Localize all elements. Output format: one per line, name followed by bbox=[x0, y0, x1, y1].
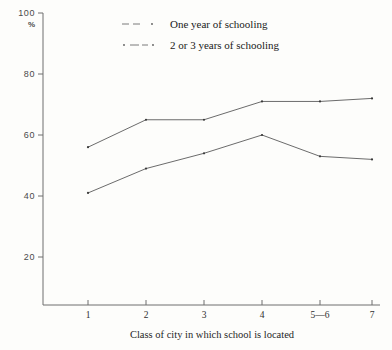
legend-swatch-dot-1 bbox=[151, 23, 153, 25]
chart-container: 100 % 80 60 40 20 1 2 3 4 5—6 7 Class of… bbox=[0, 0, 392, 350]
data-point bbox=[319, 155, 321, 157]
y-tick-label-100: 100 bbox=[18, 8, 35, 18]
series-line bbox=[88, 135, 372, 193]
data-point bbox=[87, 146, 89, 148]
data-point bbox=[203, 119, 205, 121]
x-tick-label-5-6: 5—6 bbox=[311, 310, 330, 320]
legend-swatch-dot-2a bbox=[123, 44, 125, 46]
series-line bbox=[88, 98, 372, 147]
series-two-or-three-years bbox=[87, 134, 373, 194]
data-point bbox=[87, 192, 89, 194]
data-point bbox=[319, 100, 321, 102]
y-tick-label-80: 80 bbox=[24, 69, 35, 79]
x-tick-label-7: 7 bbox=[370, 310, 375, 320]
data-point bbox=[145, 167, 147, 169]
x-axis-title: Class of city in which school is located bbox=[130, 329, 295, 340]
data-point bbox=[145, 119, 147, 121]
legend-entry-one-year: One year of schooling bbox=[122, 18, 268, 30]
x-tick-label-1: 1 bbox=[86, 310, 91, 320]
x-tick-label-3: 3 bbox=[202, 310, 207, 320]
x-tick-label-2: 2 bbox=[144, 310, 149, 320]
legend-entry-two-or-three-years: 2 or 3 years of schooling bbox=[123, 39, 279, 51]
legend-label-two-or-three-years: 2 or 3 years of schooling bbox=[170, 39, 280, 51]
data-point bbox=[371, 97, 373, 99]
data-point bbox=[261, 100, 263, 102]
data-point bbox=[371, 158, 373, 160]
y-tick-label-60: 60 bbox=[24, 130, 35, 140]
series-layer bbox=[87, 97, 373, 194]
y-tick-label-20: 20 bbox=[24, 252, 35, 262]
x-axis-ticks bbox=[88, 300, 372, 305]
y-axis-percent-label: % bbox=[28, 20, 35, 29]
series-one-year bbox=[87, 97, 373, 148]
y-axis-ticks bbox=[38, 13, 43, 257]
line-chart: 100 % 80 60 40 20 1 2 3 4 5—6 7 Class of… bbox=[0, 0, 392, 350]
legend-label-one-year: One year of schooling bbox=[170, 18, 268, 30]
legend-swatch-dot-2b bbox=[152, 44, 154, 46]
data-point bbox=[261, 134, 263, 136]
x-tick-label-4: 4 bbox=[260, 310, 265, 320]
data-point bbox=[203, 152, 205, 154]
legend: One year of schooling 2 or 3 years of sc… bbox=[122, 18, 280, 51]
y-tick-label-40: 40 bbox=[24, 191, 35, 201]
